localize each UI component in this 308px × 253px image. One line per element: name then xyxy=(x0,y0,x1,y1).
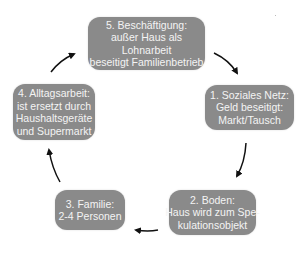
node-2-line-3: kulationsobjekt xyxy=(178,219,247,232)
node-3-familie: 3. Familie: 2-4 Personen xyxy=(55,190,125,230)
node-4-line-1: 4. Alltagsarbeit: xyxy=(18,87,90,100)
node-5-beschaeftigung: 5. Beschäftigung: außer Haus als Lohnarb… xyxy=(88,17,205,70)
node-5-line-2: außer Haus als xyxy=(111,31,182,44)
arrow-1-to-2 xyxy=(237,143,246,176)
arrow-5-to-1 xyxy=(214,53,237,73)
arrow-4-to-5 xyxy=(51,54,74,72)
node-2-line-1: 2. Boden: xyxy=(190,194,235,207)
speck-dot xyxy=(275,15,276,16)
node-2-line-2: Haus wird zum Spe- xyxy=(165,206,260,219)
node-1-soziales-netz: 1. Soziales Netz: Geld beseitigt: Markt/… xyxy=(205,85,294,130)
node-5-line-4: beseitigt Familienbetrieb xyxy=(90,56,204,69)
arrow-3-to-4 xyxy=(49,150,60,182)
node-1-line-1: 1. Soziales Netz: xyxy=(210,89,289,102)
node-5-line-3: Lohnarbeit xyxy=(122,44,172,57)
node-2-boden: 2. Boden: Haus wird zum Spe- kulationsob… xyxy=(169,190,256,235)
node-4-line-3: Haushaltsgeräte xyxy=(16,112,92,125)
node-3-line-2: 2-4 Personen xyxy=(58,210,121,223)
node-1-line-2: Geld beseitigt: xyxy=(216,101,283,114)
node-3-line-1: 3. Familie: xyxy=(66,198,114,211)
node-4-alltagsarbeit: 4. Alltagsarbeit: ist ersetzt durch Haus… xyxy=(13,84,95,140)
node-1-line-3: Markt/Tausch xyxy=(218,114,280,127)
node-5-line-1: 5. Beschäftigung: xyxy=(106,19,187,32)
node-4-line-4: und Supermarkt xyxy=(17,125,92,138)
arrow-2-to-3 xyxy=(136,230,158,231)
node-4-line-2: ist ersetzt durch xyxy=(17,100,91,113)
